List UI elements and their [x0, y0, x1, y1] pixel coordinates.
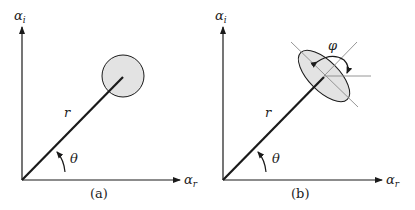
phi-label: φ	[328, 38, 338, 53]
x-axis-label: αr	[184, 172, 198, 189]
theta-label: θ	[70, 151, 78, 166]
radius-label: r	[265, 105, 272, 120]
y-axis-label: αi	[215, 8, 227, 25]
caption-a: (a)	[90, 186, 108, 201]
caption-b: (b)	[291, 186, 309, 201]
x-axis-label: αr	[386, 172, 400, 189]
panel-a: αi αr r θ (a)	[14, 8, 198, 201]
radius-label: r	[64, 105, 71, 120]
theta-arc-arrow	[57, 152, 65, 172]
theta-label: θ	[272, 151, 280, 166]
diagram-canvas: αi αr r θ (a) αi αr r θ φ (b)	[0, 0, 415, 210]
theta-arc-arrow	[258, 152, 266, 172]
panel-b: αi αr r θ φ (b)	[215, 8, 400, 201]
y-axis-label: αi	[14, 8, 26, 25]
